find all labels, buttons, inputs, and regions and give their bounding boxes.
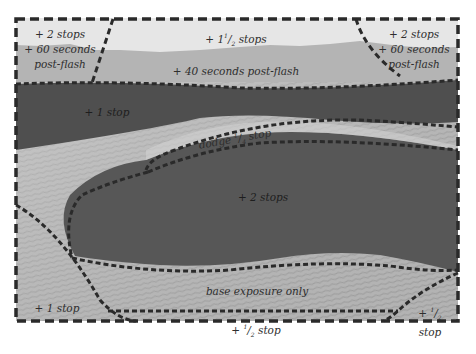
label-band: + 1 stop	[85, 105, 130, 120]
label-bottom-right: + 1/2 stop	[418, 302, 441, 340]
label-text: dodge	[198, 133, 236, 151]
label-text: stop	[244, 126, 272, 142]
label-text: +	[231, 324, 243, 336]
label-line: + 2 stops	[378, 27, 450, 42]
label-top-center-exposure: + 11/2 stops	[205, 28, 266, 51]
label-text: +	[418, 307, 430, 319]
label-top-center-postflash: + 40 seconds post-flash	[173, 64, 299, 79]
label-line: + 60 seconds	[378, 42, 450, 57]
label-dune: + 2 stops	[238, 190, 288, 205]
label-line: post-flash	[24, 57, 96, 72]
label-line: stop	[418, 325, 441, 340]
label-bottom-center: + 1/2 stop	[231, 319, 280, 342]
label-line: post-flash	[378, 57, 450, 72]
label-text: + 1	[205, 33, 224, 45]
label-text: stops	[235, 33, 266, 45]
fraction-denominator: 2	[438, 314, 442, 321]
label-text: stop	[255, 324, 281, 336]
label-line: + 60 seconds	[24, 42, 96, 57]
label-top-left: + 2 stops + 60 seconds post-flash	[24, 27, 96, 72]
label-base: base exposure only	[206, 284, 308, 299]
label-top-right: + 2 stops + 60 seconds post-flash	[378, 27, 450, 72]
label-line: + 2 stops	[24, 27, 96, 42]
print-map-figure: + 2 stops + 60 seconds post-flash + 11/2…	[0, 0, 476, 354]
label-bottom-left: + 1 stop	[35, 301, 80, 316]
